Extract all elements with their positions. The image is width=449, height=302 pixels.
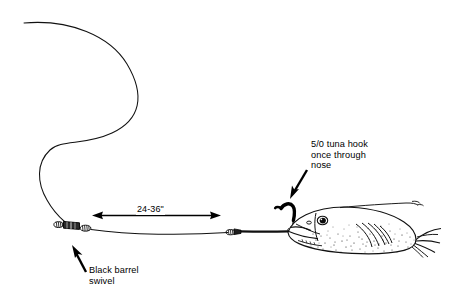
baitfish-eye	[317, 216, 327, 225]
diagram-canvas	[0, 0, 449, 302]
baitfish-tail	[412, 229, 441, 258]
leader-line	[91, 230, 288, 235]
leader-crimp-knot	[226, 229, 241, 235]
swivel-barrel-body	[64, 222, 80, 230]
main-line	[24, 22, 138, 222]
leader-length-label: 24-36"	[136, 204, 165, 215]
swivel-right-coil	[80, 225, 91, 231]
swivel-callout-arrow	[72, 245, 86, 272]
hook-callout-label: 5/0 tuna hook once through nose	[311, 139, 368, 171]
black-barrel-swivel	[54, 222, 91, 232]
swivel-callout-label: Black barrel swivel	[89, 265, 139, 286]
baitfish-body	[288, 201, 441, 257]
hook-callout-arrow	[290, 170, 307, 199]
swivel-left-coil	[54, 222, 63, 228]
fishing-rig-diagram: 5/0 tuna hook once through nose Black ba…	[0, 0, 449, 302]
